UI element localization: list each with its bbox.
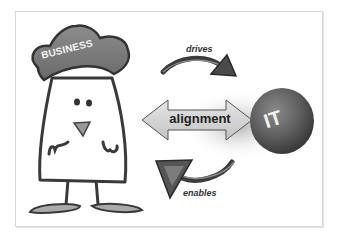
enables-label: enables [183, 188, 217, 198]
drives-arrow-icon [163, 55, 236, 76]
alignment-label: alignment [157, 111, 243, 126]
drives-label: drives [186, 44, 213, 54]
